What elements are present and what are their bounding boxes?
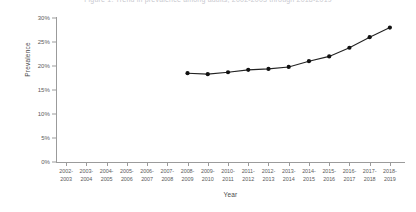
data-point-marker [185,71,189,75]
data-point-marker [368,35,372,39]
data-point-marker [327,54,331,58]
data-point-marker [246,68,250,72]
data-point-marker [266,67,270,71]
data-point-marker [307,59,311,63]
plot-area [0,0,416,212]
line-chart-figure: Figure 1. Trend in prevalence among adul… [0,0,416,212]
data-point-marker [388,26,392,30]
data-point-marker [226,70,230,74]
data-point-marker [347,46,351,50]
data-point-marker [206,72,210,76]
data-point-marker [287,65,291,69]
